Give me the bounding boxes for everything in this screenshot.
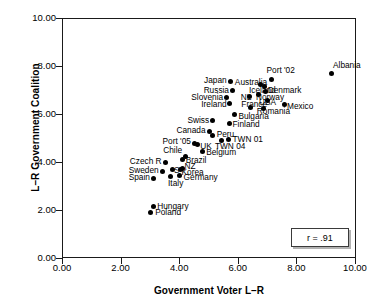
data-point [151,176,156,181]
data-point-label: Canada [176,126,205,135]
y-tick-mark [56,66,62,67]
data-point [227,121,232,126]
data-point [329,71,334,76]
data-point-label: Chile [163,145,182,154]
data-point [200,149,205,154]
plot-top-border [62,18,356,19]
x-tick-label: 6.00 [213,262,263,274]
data-point-label: Germany [184,172,218,181]
data-point-label: Poland [155,208,181,217]
y-tick-mark [56,114,62,115]
data-point-label: Albania [333,60,361,69]
x-tick-label: 10.00 [330,262,380,274]
data-point [160,169,165,174]
correlation-value: r = .91 [307,233,333,243]
x-tick-label: 4.00 [154,262,204,274]
data-point [269,77,274,82]
y-tick-mark [56,18,62,19]
y-tick-mark [56,210,62,211]
y-tick-mark [56,162,62,163]
data-point-label: Ireland [201,99,226,108]
x-axis-title: Government Voter L–R [62,285,356,296]
data-point-label: Mexico [287,102,313,111]
data-point-label: Port '02 [267,66,295,75]
data-point-label: Spain [129,172,150,181]
data-point-label: Italy [168,179,183,188]
y-tick-label: 2.00 [12,205,56,215]
data-point-label: Belgium [206,147,236,156]
data-point-label: Finland [233,120,260,129]
y-tick-label: 8.00 [12,61,56,71]
y-tick-label: 4.00 [12,157,56,167]
data-point [227,101,232,106]
data-point-label: Swiss [187,116,209,125]
scatter-plot-figure: L–R Government Coalition Government Vote… [0,0,380,307]
data-point [163,160,168,165]
plot-right-border [355,18,356,259]
x-tick-label: 2.00 [96,262,146,274]
y-tick-label: 10.00 [12,13,56,23]
y-tick-label: 6.00 [12,109,56,119]
data-point [230,88,235,93]
x-tick-label: 0.00 [37,262,87,274]
plot-area [62,18,356,258]
correlation-annotation-box: r = .91 [291,228,349,247]
x-tick-label: 8.00 [271,262,321,274]
